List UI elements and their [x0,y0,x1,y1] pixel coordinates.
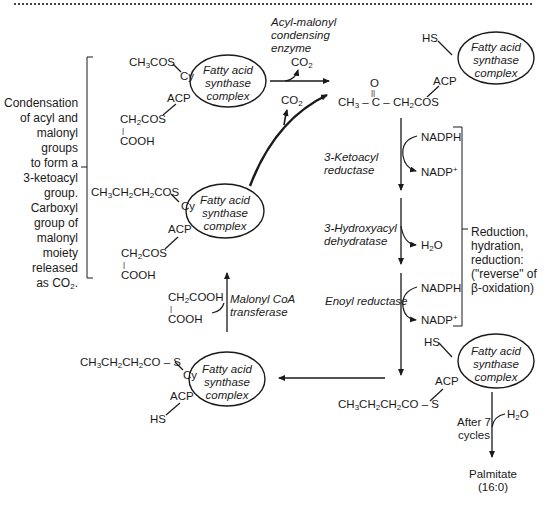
nadp-label-2: NADP+ [421,314,458,327]
hs-label-bottom-right: HS [424,336,440,349]
acp-label-top-right: ACP [433,75,457,88]
hs-label-bottom-left: HS [150,413,166,426]
condensation-arrow-curved [250,95,327,186]
termination-condition: After 7 cycles [457,416,491,442]
complex-label-bottom-left: Fatty acid synthase complex [195,363,259,402]
complex-label-top-left: Fatty acid synthase complex [196,64,260,103]
co2-release-arrow-1 [285,70,298,81]
co2-release-arrow-2 [284,110,287,125]
nadph-label-2: NADPH [421,282,461,295]
complex-label-top-right: Fatty acid synthase complex [464,41,528,80]
reduction-annotation: Reduction, hydration, reduction: ("rever… [471,225,537,295]
co2-label-1: CO2 [291,56,313,69]
complex-label-bottom-right: Fatty acid synthase complex [464,345,528,384]
condensing-enzyme-label: Acyl-malonyl condensing enzyme [271,16,336,55]
malonyl-acp-substituent-mid: CH2COS | COOH [121,248,167,281]
palmitate-product: Palmitate (16:0) [466,468,520,494]
butyryl-acp-substituent: CH3CH2CH2CO – S [338,398,439,411]
acp-label-bottom: ACP [170,390,194,403]
malonyl-transferase-label: Malonyl CoA transferase [230,293,295,319]
h2o-label-2: H2O [507,408,529,421]
dehydratase-label: 3-Hydroxyacyl dehydratase [324,222,397,248]
ketoacyl-acp: CH3 – C – CH2COS [338,96,439,109]
butyryl-s-substituent: CH3CH2CH2CO – S [80,356,181,369]
hs-label-top-right: HS [422,32,438,45]
acp-label: ACP [167,92,191,105]
enoyl-reductase-label: Enoyl reductase [325,295,407,308]
acp-label-mid: ACP [168,223,192,236]
butyryl-cy-substituent: CH3CH2CH2COS [91,186,179,199]
nadp-label-1: NADP+ [421,166,458,179]
h2o-label-1: H2O [421,239,443,252]
ketoacyl-reductase-label: 3-Ketoacyl reductase [324,151,378,177]
co2-label-2: CO2 [281,94,303,107]
left-bracket [87,57,93,278]
cy-label: Cy [180,70,194,83]
malonyl-substrate: CH2COOH | COOH [168,292,224,325]
acetyl-cy-substituent: CH3COS [129,56,175,69]
right-bracket [453,127,462,326]
condensation-annotation: Condensation of acyl and malonyl groups … [4,96,78,291]
complex-label-mid-left: Fatty acid synthase complex [193,194,257,233]
acp-label-bottom-right: ACP [435,375,459,388]
nadph-label-1: NADPH [421,131,461,144]
malonyl-acp-substituent: CH2COS | COOH [120,114,166,147]
